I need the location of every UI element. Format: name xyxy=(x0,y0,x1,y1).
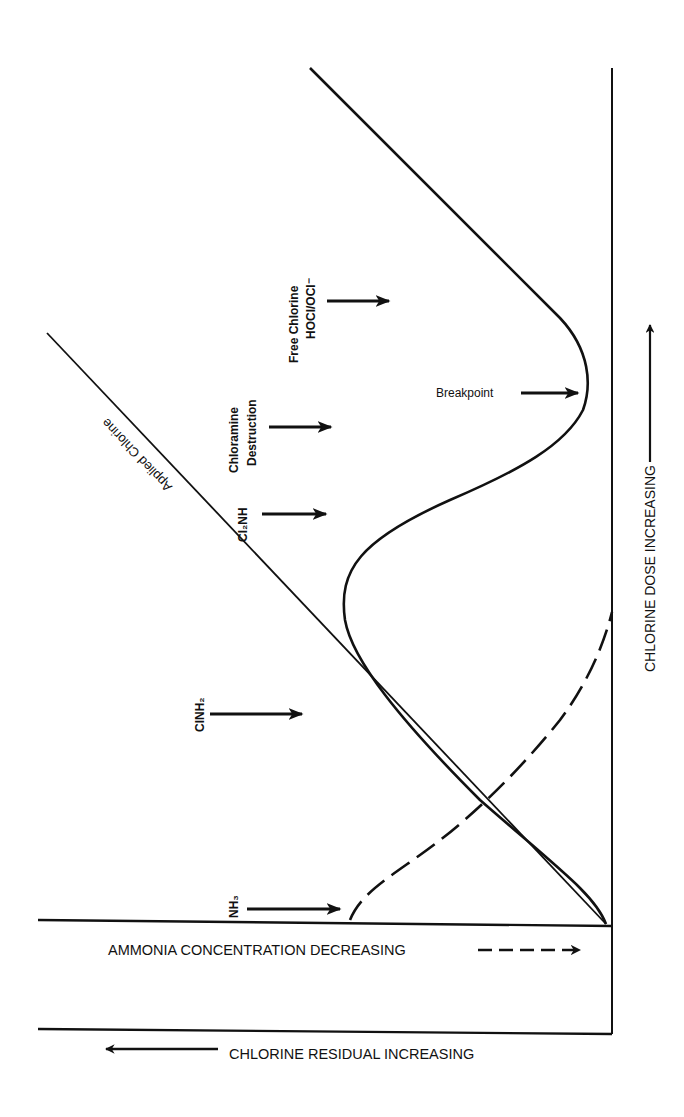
zone-label-chloramine: Chloramine xyxy=(227,407,241,473)
zone-free-chlorine: Free Chlorine HOCl/OCl⁻ xyxy=(287,278,389,363)
dose-axis-label: CHLORINE DOSE INCREASING xyxy=(642,465,658,672)
breakpoint-label: Breakpoint xyxy=(436,386,494,400)
ammonia-axis-label: AMMONIA CONCENTRATION DECREASING xyxy=(108,942,406,958)
ammonia-axis-title: AMMONIA CONCENTRATION DECREASING xyxy=(108,942,580,958)
zone-label-free-chlorine: Free Chlorine xyxy=(287,285,301,363)
zone-cl2nh: Cl₂NH xyxy=(236,507,326,542)
zone-label-cl2nh: Cl₂NH xyxy=(236,507,250,542)
residual-axis-line xyxy=(38,1029,612,1034)
dose-axis-title: CHLORINE DOSE INCREASING xyxy=(642,325,658,672)
zone-label-hocl-ocl: HOCl/OCl⁻ xyxy=(304,278,318,339)
breakpoint-chlorination-diagram: Applied Chlorine NH₃ ClNH₂ Cl₂NH Chloram… xyxy=(0,0,684,1117)
zone-nh3: NH₃ xyxy=(227,895,340,918)
zone-label-clnh2: ClNH₂ xyxy=(193,697,207,732)
zone-label-nh3: NH₃ xyxy=(227,895,241,918)
zone-label-destruction: Destruction xyxy=(245,399,259,466)
residual-axis-title: CHLORINE RESIDUAL INCREASING xyxy=(106,1046,474,1062)
zone-chloramine-destruction: Chloramine Destruction xyxy=(227,399,331,473)
ammonia-axis-line xyxy=(38,920,612,926)
chlorine-residual-curve xyxy=(310,68,606,924)
ammonia-dashed-curve xyxy=(350,612,612,920)
residual-axis-label: CHLORINE RESIDUAL INCREASING xyxy=(229,1046,474,1062)
breakpoint-annotation: Breakpoint xyxy=(436,386,578,400)
zone-clnh2: ClNH₂ xyxy=(193,697,302,732)
